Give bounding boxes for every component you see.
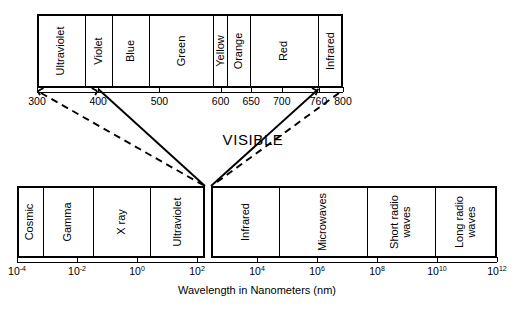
em-band-short-radio-waves: Short radiowaves <box>368 188 436 256</box>
em-axis-tick <box>77 257 78 262</box>
em-axis-tick-label: 104 <box>249 265 265 277</box>
visible-axis-tick <box>282 87 283 92</box>
em-axis-tick <box>377 257 378 262</box>
visible-axis-tick <box>37 87 38 92</box>
em-band-long-radio-waves: Long radiowaves <box>436 188 498 256</box>
em-band-label: Microwaves <box>317 193 329 251</box>
em-axis-tick <box>137 257 138 262</box>
visible-axis-tick-label: 650 <box>242 95 260 107</box>
em-band-infrared: Infrared <box>213 188 280 256</box>
visible-axis-line <box>37 92 343 93</box>
visible-axis-tick <box>98 87 99 92</box>
em-axis-tick <box>197 257 198 262</box>
em-axis-tick-label: 10-2 <box>68 265 86 277</box>
visible-axis-tick <box>159 87 160 92</box>
em-axis-tick <box>497 257 498 262</box>
visible-axis-tick-label: 760 <box>310 95 328 107</box>
visible-band-label: Infrared <box>325 32 337 70</box>
visible-band-label: Red <box>279 41 291 61</box>
visible-label: VISIBLE <box>223 131 284 148</box>
em-band-label: X ray <box>116 209 128 235</box>
em-axis-tick-label: 100 <box>129 265 145 277</box>
visible-band-infrared: Infrared <box>319 16 343 86</box>
visible-band-orange: Orange <box>228 16 251 86</box>
em-band-label: Cosmic <box>24 204 36 241</box>
em-band-microwaves: Microwaves <box>280 188 369 256</box>
em-band-label: Ultraviolet <box>172 198 184 247</box>
em-spectrum-bar-left: CosmicGammaX rayUltraviolet <box>17 186 205 258</box>
visible-axis-tick-label: 400 <box>89 95 107 107</box>
em-axis-tick-label: 106 <box>309 265 325 277</box>
em-axis-tick-label: 10-4 <box>8 265 26 277</box>
visible-axis-tick-label: 800 <box>334 95 352 107</box>
em-band-gamma: Gamma <box>44 188 94 256</box>
em-axis-tick <box>257 257 258 262</box>
em-band-label: Gamma <box>62 202 74 241</box>
em-axis-tick-label: 1012 <box>487 265 506 277</box>
visible-axis-tick-label: 600 <box>212 95 230 107</box>
em-axis-tick-label: 1010 <box>427 265 446 277</box>
visible-spectrum-bar: UltravioletVioletBlueGreenYellowOrangeRe… <box>37 14 343 88</box>
axis-title: Wavelength in Nanometers (nm) <box>178 284 336 296</box>
visible-axis-tick-label: 300 <box>28 95 46 107</box>
em-axis-tick <box>17 257 18 262</box>
visible-band-ultraviolet: Ultraviolet <box>37 16 86 86</box>
visible-axis-tick <box>221 87 222 92</box>
em-axis-tick <box>317 257 318 262</box>
visible-band-label: Yellow <box>215 35 227 66</box>
em-axis-tick-label: 108 <box>369 265 385 277</box>
visible-band-label: Orange <box>233 33 245 70</box>
em-spectrum-figure: UltravioletVioletBlueGreenYellowOrangeRe… <box>0 0 514 313</box>
visible-axis-tick <box>319 87 320 92</box>
visible-axis-tick-label: 700 <box>273 95 291 107</box>
visible-band-red: Red <box>251 16 318 86</box>
visible-axis-tick <box>343 87 344 92</box>
visible-band-blue: Blue <box>114 16 151 86</box>
visible-band-yellow: Yellow <box>214 16 227 86</box>
em-band-label: Infrared <box>240 203 252 241</box>
em-spectrum-bar-right: InfraredMicrowavesShort radiowavesLong r… <box>211 186 497 258</box>
em-band-label: Long radiowaves <box>454 196 478 248</box>
visible-band-label: Green <box>176 36 188 67</box>
visible-band-green: Green <box>150 16 214 86</box>
em-band-ultraviolet: Ultraviolet <box>151 188 206 256</box>
visible-band-label: Blue <box>126 40 138 62</box>
em-axis-line <box>17 262 497 263</box>
em-band-label: Short radiowaves <box>389 195 413 249</box>
em-axis-tick-label: 102 <box>189 265 205 277</box>
visible-band-violet: Violet <box>86 16 114 86</box>
visible-band-label: Violet <box>93 37 105 64</box>
dashed-left-300nm <box>41 93 203 185</box>
visible-band-label: Ultraviolet <box>55 27 67 76</box>
em-axis-tick <box>437 257 438 262</box>
em-band-cosmic: Cosmic <box>17 188 44 256</box>
em-band-x-ray: X ray <box>94 188 151 256</box>
visible-axis-tick <box>251 87 252 92</box>
visible-axis-tick-label: 500 <box>151 95 169 107</box>
